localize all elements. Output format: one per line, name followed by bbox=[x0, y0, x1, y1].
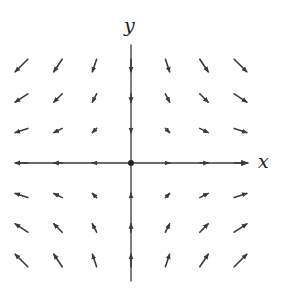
vector-arrow bbox=[54, 224, 62, 232]
vector-arrow bbox=[165, 94, 169, 102]
vector-arrow bbox=[92, 94, 96, 102]
vector-arrow bbox=[200, 224, 208, 232]
vector-arrow bbox=[15, 193, 28, 197]
vector-arrow bbox=[234, 193, 247, 197]
vector-arrow bbox=[15, 128, 28, 132]
vector-arrow bbox=[54, 94, 62, 102]
vector-arrow bbox=[200, 193, 208, 197]
vector-arrow bbox=[165, 254, 169, 267]
vector-arrow bbox=[15, 254, 28, 267]
vector-arrow bbox=[165, 193, 169, 197]
x-axis-label: x bbox=[258, 150, 269, 172]
vector-arrow bbox=[15, 94, 28, 102]
vector-arrow bbox=[92, 128, 96, 132]
vector-arrow bbox=[92, 224, 96, 232]
vector-arrow bbox=[54, 254, 62, 267]
vector-arrow bbox=[92, 59, 96, 72]
vector-arrow bbox=[54, 128, 62, 132]
vector-arrow bbox=[92, 254, 96, 267]
vector-arrow bbox=[54, 59, 62, 72]
vector-arrow bbox=[200, 59, 208, 72]
vector-arrow bbox=[54, 193, 62, 197]
vector-arrow bbox=[92, 193, 96, 197]
vector-arrow bbox=[200, 254, 208, 267]
origin-point bbox=[128, 160, 134, 166]
vector-arrow bbox=[234, 94, 247, 102]
vector-arrow bbox=[165, 59, 169, 72]
vector-arrow bbox=[234, 128, 247, 132]
vector-arrow bbox=[200, 94, 208, 102]
vector-arrow bbox=[234, 254, 247, 267]
vector-arrow bbox=[165, 224, 169, 232]
vector-field-plot bbox=[0, 0, 281, 295]
vector-arrow bbox=[165, 128, 169, 132]
vector-arrow bbox=[234, 224, 247, 232]
vector-arrow bbox=[15, 224, 28, 232]
vector-arrow bbox=[234, 59, 247, 72]
y-axis-label: y bbox=[124, 14, 135, 36]
vector-arrow bbox=[15, 59, 28, 72]
vector-arrow bbox=[200, 128, 208, 132]
